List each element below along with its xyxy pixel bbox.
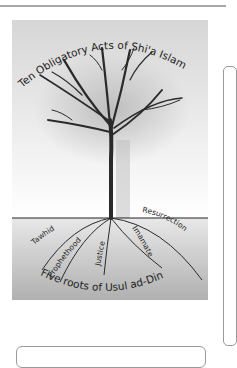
tree-diagram: Ten Obligatory Acts of Shi'a Islam Five … bbox=[12, 20, 208, 300]
caption-box bbox=[16, 346, 206, 368]
top-divider bbox=[0, 5, 226, 7]
side-panel bbox=[223, 66, 237, 346]
